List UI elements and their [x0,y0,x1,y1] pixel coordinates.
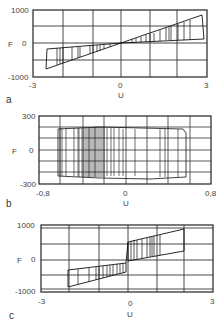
x-tick-mid-a: 0 [118,81,122,90]
x-axis-label-b: U [123,199,129,208]
y-axis-label-b: F [12,147,17,156]
y-tick-top-b: 300 [22,112,35,121]
x-tick-right-c: 3 [210,297,214,306]
plot-area-c [0,216,224,329]
chart-panel-a: 1000 0 -1000 F -3 0 3 U a [0,0,224,110]
y-tick-mid-b: 0 [29,146,33,155]
y-tick-bot-c: -1000 [15,287,35,296]
x-tick-left-a: -3 [29,81,36,90]
plot-area-b [0,110,224,216]
y-tick-bot-a: -1000 [8,73,28,82]
chart-panel-c: 1000 0 -1000 F -3 0 3 U c [0,216,224,329]
panel-letter-b: b [6,198,12,209]
x-tick-left-b: -0,8 [36,189,50,198]
x-tick-left-c: -3 [38,297,45,306]
y-tick-mid-c: 0 [31,255,35,264]
y-tick-top-a: 1000 [11,6,29,15]
y-tick-top-c: 1000 [17,221,35,230]
y-tick-mid-a: 0 [22,39,26,48]
panel-letter-c: c [9,310,14,321]
plot-area-a [0,0,224,110]
y-axis-label-a: F [8,40,13,49]
x-tick-mid-c: 0 [128,299,132,308]
x-tick-right-b: 0,8 [205,189,216,198]
x-axis-label-a: U [118,91,124,100]
panel-letter-a: a [6,94,12,105]
y-axis-label-c: F [17,256,22,265]
y-tick-bot-b: -300 [20,180,36,189]
chart-panel-b: 300 0 -300 F -0,8 0 0,8 U b [0,110,224,216]
x-tick-mid-b: 0 [123,189,127,198]
x-tick-right-a: 3 [204,81,208,90]
x-axis-label-c: U [127,310,133,319]
